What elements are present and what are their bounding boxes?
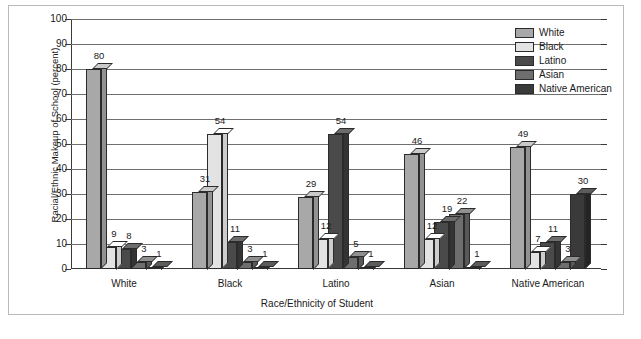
- bar-side-face: [449, 216, 455, 270]
- bar-value-label: 11: [222, 224, 248, 234]
- bar-value-label: 11: [540, 224, 566, 234]
- bar-top-face: [258, 261, 279, 267]
- x-axis-title: Race/Ethnicity of Student: [9, 298, 625, 309]
- bar: [404, 154, 419, 269]
- bar-front-face: [404, 154, 419, 269]
- y-axis-tick-right: [601, 144, 607, 145]
- x-axis-tick-label: Asian: [382, 278, 502, 289]
- bar: [510, 147, 525, 270]
- y-axis-tick-label: 60: [41, 114, 67, 124]
- bar-side-face: [464, 208, 470, 269]
- y-axis-tick-right: [601, 19, 607, 20]
- legend-label: White: [539, 27, 565, 38]
- bar-side-face: [585, 188, 591, 269]
- y-axis-tick-label: 50: [41, 139, 67, 149]
- y-axis-tick-label: 40: [41, 164, 67, 174]
- bar-value-label: 54: [328, 116, 354, 126]
- bar-group: 29125451: [283, 19, 389, 269]
- y-axis-tick-label: 100: [41, 14, 67, 24]
- y-axis-tick-label: 70: [41, 89, 67, 99]
- bar-top-face: [334, 128, 355, 134]
- x-axis-tick-label: Native American: [488, 278, 608, 289]
- bar-value-label: 54: [207, 116, 233, 126]
- bar-value-label: 30: [570, 176, 596, 186]
- bar-side-face: [525, 141, 531, 270]
- bar-value-label: 46: [404, 136, 430, 146]
- bar-side-face: [207, 186, 213, 270]
- y-axis-tick-right: [601, 169, 607, 170]
- legend-swatch: [515, 28, 534, 38]
- bar-value-label: 80: [86, 51, 112, 61]
- legend-item: White: [515, 26, 627, 39]
- bar-top-face: [304, 191, 325, 197]
- figure-caption: [8, 325, 628, 339]
- bar-value-label: 8: [116, 231, 142, 241]
- legend-swatch: [515, 70, 534, 80]
- bar-value-label: 7: [525, 234, 551, 244]
- y-axis-tick: [65, 269, 71, 270]
- bar-value-label: 3: [555, 244, 581, 254]
- bar: [192, 192, 207, 270]
- y-axis-tick-label: 30: [41, 189, 67, 199]
- bar-front-face: [510, 147, 525, 270]
- y-axis-tick-right: [601, 219, 607, 220]
- legend: WhiteBlackLatinoAsianNative American: [515, 26, 627, 96]
- bar-top-face: [152, 261, 173, 267]
- y-axis-tick-right: [601, 244, 607, 245]
- y-axis-tick-right: [601, 269, 607, 270]
- figure: Racial/Ethnic Makeup of School (percent)…: [0, 0, 641, 339]
- bar-side-face: [222, 128, 228, 269]
- legend-item: Black: [515, 40, 627, 53]
- bar: [86, 69, 101, 269]
- bar-side-face: [419, 148, 425, 269]
- bar-value-label: 5: [343, 239, 369, 249]
- bar-value-label: 12: [313, 221, 339, 231]
- legend-item: Latino: [515, 54, 627, 67]
- y-axis-tick-label: 20: [41, 214, 67, 224]
- bar-top-face: [470, 261, 491, 267]
- legend-swatch: [515, 42, 534, 52]
- bar-front-face: [86, 69, 101, 269]
- legend-label: Latino: [539, 55, 566, 66]
- bar-top-face: [228, 236, 249, 242]
- bar-value-label: 22: [449, 196, 475, 206]
- y-axis-tick-label: 0: [41, 264, 67, 274]
- y-axis-tick-right: [601, 194, 607, 195]
- x-axis-tick-label: White: [64, 278, 184, 289]
- bar-top-face: [576, 188, 597, 194]
- y-axis-tick-right: [601, 119, 607, 120]
- y-axis-tick-label: 80: [41, 64, 67, 74]
- legend-label: Black: [539, 41, 563, 52]
- x-axis-tick-label: Black: [170, 278, 290, 289]
- bar-top-face: [213, 128, 234, 134]
- legend-swatch: [515, 84, 534, 94]
- y-axis-tick-label: 90: [41, 39, 67, 49]
- legend-item: Native American: [515, 82, 627, 95]
- chart-frame: Racial/Ethnic Makeup of School (percent)…: [8, 5, 624, 315]
- bar-value-label: 12: [419, 221, 445, 231]
- legend-label: Native American: [539, 83, 612, 94]
- bar-group: 31541131: [177, 19, 283, 269]
- bar-value-label: 29: [298, 179, 324, 189]
- bar-group: 809831: [71, 19, 177, 269]
- legend-swatch: [515, 56, 534, 66]
- legend-item: Asian: [515, 68, 627, 81]
- bar: [298, 197, 313, 270]
- y-axis-tick-labels: 0102030405060708090100: [35, 19, 67, 269]
- bar-top-face: [410, 148, 431, 154]
- x-axis-tick-label: Latino: [276, 278, 396, 289]
- legend-label: Asian: [539, 69, 564, 80]
- bar-value-label: 49: [510, 129, 536, 139]
- bar-top-face: [516, 141, 537, 147]
- bar-value-label: 31: [192, 174, 218, 184]
- bar-group: 461219221: [389, 19, 495, 269]
- bar-top-face: [92, 63, 113, 69]
- bar-value-label: 1: [358, 249, 384, 259]
- bar-value-label: 1: [252, 249, 278, 259]
- bar-front-face: [298, 197, 313, 270]
- y-axis-tick-label: 10: [41, 239, 67, 249]
- bar-value-label: 1: [464, 249, 490, 259]
- bar-value-label: 1: [146, 249, 172, 259]
- bar-top-face: [364, 261, 385, 267]
- bar-front-face: [192, 192, 207, 270]
